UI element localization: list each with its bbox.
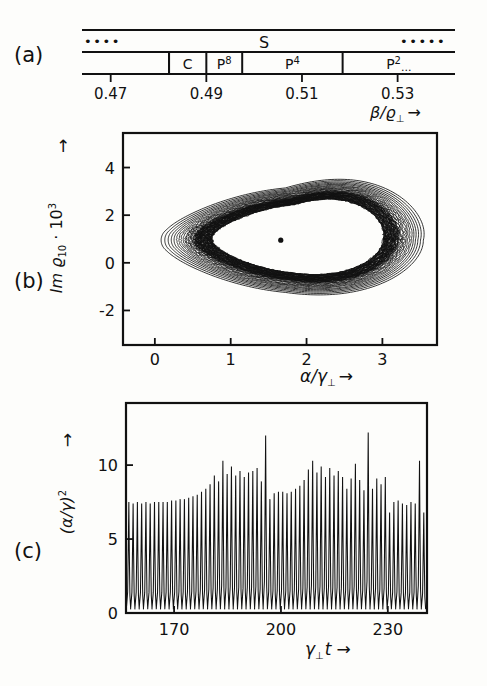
panel-a-tick-label-0.47: 0.47 xyxy=(94,85,127,103)
panel-a: (a)S•••••••••CP8P4P2...0.470.490.510.53β… xyxy=(14,30,455,124)
panel-b-ytick-label--2: -2 xyxy=(99,301,115,320)
panel-a-tick-label-0.51: 0.51 xyxy=(285,85,318,103)
panel-a-xlabel: β/ϱ⊥→ xyxy=(369,103,421,124)
scientific-figure: (a)S•••••••••CP8P4P2...0.470.490.510.53β… xyxy=(0,0,487,686)
panel-c-xtick-label-200: 200 xyxy=(266,620,297,639)
panel-b-label: (b) xyxy=(14,269,44,293)
panel-b-ytick-label-2: 2 xyxy=(105,206,115,225)
panel-b: (b)0123-2024Im ϱ10 · 103↑α/γ⊥→ xyxy=(14,133,437,388)
panel-c-ytick-label-0: 0 xyxy=(108,604,118,623)
panel-a-band-label-S: S xyxy=(259,33,269,52)
panel-a-tick-label-0.53: 0.53 xyxy=(381,85,414,103)
panel-a-label: (a) xyxy=(14,43,43,67)
panel-b-ytick-label-4: 4 xyxy=(105,159,115,178)
panel-c-ylabel: (α/γ)2 xyxy=(57,490,76,534)
panel-c-xtick-label-230: 230 xyxy=(373,620,404,639)
panel-b-xtick-label-0: 0 xyxy=(150,350,160,369)
panel-c-ylabel-arrow: → xyxy=(57,433,77,447)
figure-root: (a)S•••••••••CP8P4P2...0.470.490.510.53β… xyxy=(0,0,487,686)
panel-c-trace xyxy=(126,433,427,610)
panel-b-xtick-label-3: 3 xyxy=(377,350,387,369)
panel-c-label: (c) xyxy=(14,539,42,563)
panel-b-fixed-point xyxy=(278,238,283,243)
panel-b-ylabel-arrow: ↑ xyxy=(56,136,70,156)
panel-c: (c)1702002300510(α/γ)2→γ⊥t→ xyxy=(14,403,427,661)
panel-a-right-dots: ••••• xyxy=(400,34,446,49)
panel-a-tick-label-0.49: 0.49 xyxy=(190,85,223,103)
panel-b-ytick-label-0: 0 xyxy=(105,254,115,273)
panel-a-segment-label-P4: P4 xyxy=(285,55,300,72)
panel-a-left-dots: •••• xyxy=(84,34,121,49)
panel-c-xlabel: γ⊥t→ xyxy=(305,639,351,661)
panel-a-segment-label-P2: P2... xyxy=(386,55,411,74)
panel-b-xlabel: α/γ⊥→ xyxy=(300,366,353,388)
panel-c-ytick-label-10: 10 xyxy=(98,456,118,475)
panel-b-xtick-label-1: 1 xyxy=(226,350,236,369)
panel-b-attractor xyxy=(161,179,424,295)
panel-c-trace-group xyxy=(126,433,427,610)
panel-b-ylabel: Im ϱ10 · 103 xyxy=(47,203,68,293)
panel-c-xtick-label-170: 170 xyxy=(159,620,190,639)
panel-c-ytick-label-5: 5 xyxy=(108,530,118,549)
panel-a-segment-label-P8: P8 xyxy=(217,55,232,72)
panel-a-segment-label-C: C xyxy=(183,56,193,72)
